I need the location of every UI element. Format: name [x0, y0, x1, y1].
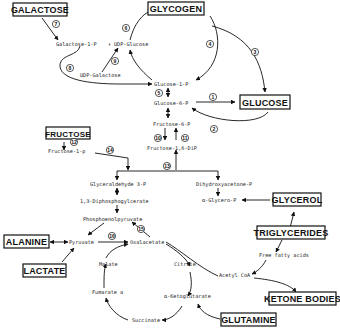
svg-text:11: 11 [182, 135, 188, 141]
node-lactate: LACTATE [23, 264, 66, 277]
svg-text:1: 1 [212, 94, 215, 100]
svg-text:6: 6 [125, 25, 128, 31]
lactate-label: LACTATE [23, 266, 65, 276]
dihydroxyacetone-p-label: Dihydroxyacetone-P [196, 181, 252, 188]
reaction-number-1: 1 [209, 93, 216, 100]
glucose-1-p-label: Glucose-1-P [154, 81, 188, 87]
reaction-number-9: 9 [111, 57, 118, 64]
svg-text:7: 7 [55, 21, 58, 27]
udp-glucose-label: UDP-Glucose [114, 41, 148, 47]
oxalacetate-label: Oxalacetate [130, 239, 164, 245]
svg-text:14: 14 [107, 147, 113, 153]
node-alanine: ALANINE [4, 235, 49, 248]
reaction-number-2: 2 [210, 125, 217, 132]
svg-text:9: 9 [114, 58, 117, 64]
reaction-number-11: 11 [181, 134, 188, 141]
svg-text:10: 10 [155, 135, 161, 141]
phosphoenolpyruvate-label: Phosphoenolpyruvate [83, 216, 142, 223]
svg-text:2: 2 [213, 126, 216, 132]
pyruvate-label: Pyruvate [69, 239, 94, 246]
malate-label: Malate [99, 261, 118, 267]
reaction-number-7: 7 [52, 20, 59, 27]
node-galactose: GALACTOSE [11, 3, 69, 16]
citrate-label: Citrate [174, 261, 196, 267]
fructose-1-p-label: Fructose-1-p [48, 148, 85, 155]
svg-text:3: 3 [254, 49, 257, 55]
svg-text:16: 16 [109, 233, 115, 239]
node-glutamine: GLUTAMINE [221, 313, 276, 326]
svg-text:5: 5 [158, 90, 161, 96]
alpha-ketoglutarate-label: α-Ketoglutarate [164, 293, 211, 300]
triglycerides-label: TRIGLYCERIDES [254, 228, 329, 238]
reaction-number-12: 12 [70, 138, 77, 145]
svg-text:15: 15 [138, 226, 144, 232]
node-glycogen: GLYCOGEN [148, 2, 204, 15]
fructose-6-p-label: Fructose-6-P [153, 121, 190, 127]
svg-text:12: 12 [71, 139, 77, 145]
fumarate-label: Fumarate a [92, 289, 123, 295]
diphosphoglycerate-label: 1,3-Diphosphogylcerate [80, 198, 149, 205]
galactose-1-p-label: Galactose-1-P [56, 41, 97, 47]
alanine-label: ALANINE [6, 237, 47, 247]
reaction-number-6: 6 [122, 24, 129, 31]
svg-text:8: 8 [69, 65, 72, 71]
node-fructose: FRUCTOSE [45, 127, 91, 139]
reaction-number-5: 5 [155, 89, 162, 96]
glycerol-label: GLYCEROL [272, 195, 323, 205]
svg-text:13: 13 [164, 163, 170, 169]
glucose-6-p-label: Glucose-6-P [154, 100, 188, 106]
reaction-number-15: 15 [137, 225, 144, 232]
plus-label: + [108, 41, 111, 47]
reaction-number-14: 14 [106, 146, 113, 153]
alpha-glycero-p-label: α-Glycero-P [202, 197, 236, 204]
fructose-1-6-dip-label: Fructose-1,6-DiP [147, 145, 197, 151]
node-glycerol: GLYCEROL [272, 193, 323, 206]
ketone-bodies-label: KETONE BODIES [264, 294, 340, 304]
node-ketone-bodies: KETONE BODIES [264, 292, 340, 305]
reaction-number-4: 4 [206, 40, 213, 47]
free-fatty-acids-label: Free fatty acids [259, 252, 309, 259]
intermediates: Galactose-1-P + UDP-Glucose UDP-Galactos… [48, 41, 309, 323]
reaction-number-13: 13 [163, 162, 170, 169]
succinate-label: Succinate [132, 317, 160, 323]
acetyl-coa-label: Acetyl CoA [219, 272, 251, 279]
node-triglycerides: TRIGLYCERIDES [254, 226, 329, 239]
glucose-label: GLUCOSE [242, 98, 288, 108]
metabolic-pathway-diagram: GALACTOSE GLYCOGEN GLUCOSE FRUCTOSE GLYC… [0, 0, 340, 334]
galactose-label: GALACTOSE [11, 5, 69, 15]
glutamine-label: GLUTAMINE [221, 315, 276, 325]
reaction-number-3: 3 [251, 48, 258, 55]
glycogen-label: GLYCOGEN [150, 4, 202, 14]
udp-galactose-label: UDP-Galactose [80, 72, 121, 78]
glyceraldehyde-3-p-label: Glyceraldehyde 3-P [90, 181, 146, 188]
reaction-number-10: 10 [154, 134, 161, 141]
node-glucose: GLUCOSE [240, 95, 290, 109]
reaction-number-8: 8 [66, 64, 73, 71]
fructose-label: FRUCTOSE [45, 130, 91, 139]
reaction-number-16: 16 [108, 232, 115, 239]
svg-text:4: 4 [209, 41, 212, 47]
